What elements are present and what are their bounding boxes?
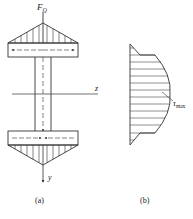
shear-stress-diagram: FQ z y (a) τmax (b) — [0, 0, 193, 219]
caption-a: (a) — [35, 196, 44, 205]
y-axis-label: y — [47, 173, 52, 182]
z-axis-label: z — [94, 84, 99, 93]
force-label: FQ — [36, 2, 48, 13]
web-shear-distribution — [130, 44, 170, 145]
tau-max-leader — [162, 92, 173, 101]
caption-b: (b) — [140, 196, 150, 205]
tau-max-label: τmax — [173, 99, 186, 109]
bottom-flange — [8, 131, 78, 145]
figure-b — [130, 44, 173, 145]
figure-a — [8, 12, 98, 182]
